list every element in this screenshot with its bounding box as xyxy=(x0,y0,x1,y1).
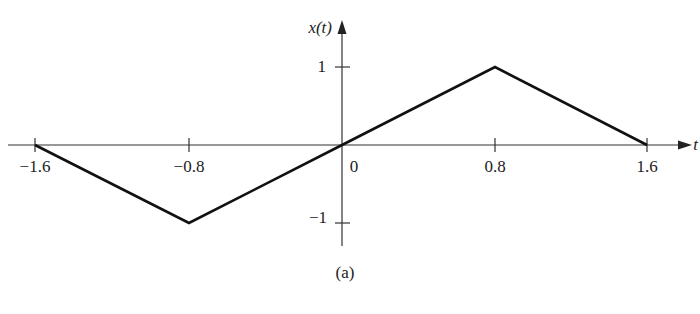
ytick-label: 1 xyxy=(318,57,327,76)
y-axis-arrow-icon xyxy=(338,20,347,34)
xtick-label: 1.6 xyxy=(636,157,657,176)
y-axis-label: x(t) xyxy=(307,18,332,37)
xtick-label: −0.8 xyxy=(174,157,205,176)
xtick-label: 0 xyxy=(350,157,359,176)
figure-caption: (a) xyxy=(336,263,355,282)
x-axis-label: t xyxy=(693,135,699,154)
xtick-label: −1.6 xyxy=(20,157,51,176)
xtick-label: 0.8 xyxy=(484,157,505,176)
signal-plot: −1.6 −0.8 0 0.8 1.6 1 −1 x(t) t (a) xyxy=(0,0,700,314)
x-axis-arrow-icon xyxy=(678,141,692,150)
ytick-label: −1 xyxy=(309,208,327,227)
